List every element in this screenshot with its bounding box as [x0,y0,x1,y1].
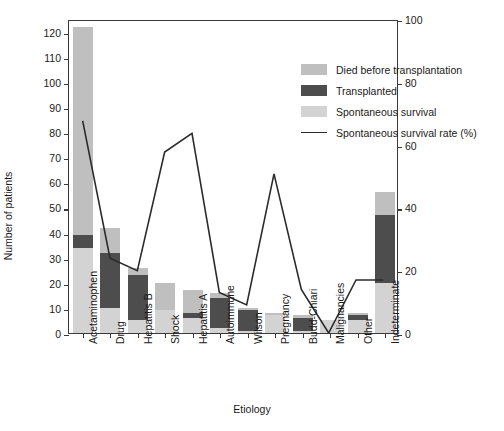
legend-swatch-icon [301,64,327,75]
y-axis-left-tick-label: 30 [49,254,61,265]
x-axis-tick [165,333,166,338]
x-axis-category-label: Autoimmune [224,285,236,344]
x-axis-tick [220,333,221,338]
x-axis-category-label: Pregnancy [279,294,291,344]
y-axis-left-tick-label: 80 [49,128,61,139]
legend-line-icon [301,132,327,133]
legend-item: Spontaneous survival [301,103,477,120]
legend-item: Died before transplantation [301,61,477,78]
y-axis-left-tick-label: 110 [44,53,61,64]
y-axis-right-tick-label: 40 [405,203,417,214]
legend-item: Transplanted [301,82,477,99]
x-axis-tick [138,333,139,338]
y-axis-left-title: Number of patients [2,171,14,260]
x-axis-category-label: Acetaminophen [87,271,99,344]
x-axis-title: Etiology [233,403,270,415]
y-axis-right-tick [397,21,402,22]
y-axis-right-tick-label: 20 [405,266,417,277]
legend-label: Spontaneous survival [336,106,436,118]
x-axis-category-label: Drug [114,321,126,344]
y-axis-left-tick-label: 60 [49,178,61,189]
x-axis-tick [248,333,249,338]
chart-legend: Died before transplantationTransplantedS… [301,61,477,145]
y-axis-left-tick-label: 20 [49,279,61,290]
y-axis-left-tick-label: 40 [49,229,61,240]
y-axis-left-tick-label: 10 [49,304,61,315]
y-axis-left-tick [64,335,69,336]
legend-swatch-icon [301,85,327,96]
y-axis-left-tick-label: 100 [43,78,61,89]
legend-swatch-icon [301,106,327,117]
x-axis-tick [330,333,331,338]
x-axis-tick [110,333,111,338]
legend-label: Transplanted [336,85,397,97]
x-axis-tick [193,333,194,338]
y-axis-right-tick [397,209,402,210]
y-axis-left-tick-label: 0 [55,329,61,340]
x-axis-tick [385,333,386,338]
y-axis-right-tick [397,272,402,273]
x-axis-category-label: Malignancies [334,283,346,344]
y-axis-right-tick-label: 100 [405,15,423,26]
x-axis-category-label: Hepatitis B [142,293,154,344]
x-axis-category-label: Hepatitis A [197,294,209,344]
x-axis-category-label: Wilson [252,312,264,344]
legend-label: Died before transplantation [336,64,462,76]
legend-label: Spontaneous survival rate (%) [336,127,477,139]
x-axis-tick [275,333,276,338]
chart-container: Number of patients Spontaneous survival … [0,0,504,431]
legend-item: Spontaneous survival rate (%) [301,124,477,141]
x-axis-category-label: Other [362,318,374,344]
x-axis-tick [303,333,304,338]
y-axis-left-tick-label: 120 [43,28,61,39]
y-axis-left-tick-label: 90 [49,103,61,114]
x-axis-category-label: Shock [169,315,181,344]
x-axis-tick [358,333,359,338]
x-axis-category-label: Budd-Chiari [307,289,319,344]
y-axis-right-tick [397,147,402,148]
x-axis-tick [83,333,84,338]
y-axis-left-tick-label: 70 [49,153,61,164]
y-axis-right-tick-label: 0 [405,329,411,340]
y-axis-left-tick-label: 50 [49,203,61,214]
x-axis-category-label: Indeterminate [389,280,401,344]
